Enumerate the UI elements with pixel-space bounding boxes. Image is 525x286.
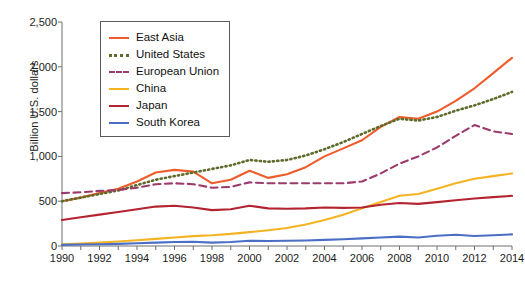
x-axis-tick-label: 2008	[387, 252, 411, 264]
x-axis-tick-label: 1996	[162, 252, 186, 264]
x-axis-tick-label: 1998	[200, 252, 224, 264]
legend-swatch-icon	[109, 31, 129, 42]
legend-item-china[interactable]: China	[109, 79, 219, 96]
legend-label: Japan	[136, 99, 167, 111]
legend-item-south-korea[interactable]: South Korea	[109, 113, 219, 130]
legend-label: East Asia	[136, 31, 184, 43]
x-axis-tick-label: 1992	[87, 252, 111, 264]
legend-item-united-states[interactable]: United States	[109, 45, 219, 62]
x-axis-tick-label: 1994	[125, 252, 149, 264]
x-axis-tick-label: 2000	[237, 252, 261, 264]
x-axis-tick-label: 2012	[462, 252, 486, 264]
legend-swatch-icon	[109, 65, 129, 76]
x-axis-tick-label: 2014	[500, 252, 524, 264]
x-axis-tick-label: 2006	[350, 252, 374, 264]
legend-item-east-asia[interactable]: East Asia	[109, 28, 219, 45]
legend-swatch-icon	[109, 48, 129, 59]
legend-item-european-union[interactable]: European Union	[109, 62, 219, 79]
series-line-japan	[62, 196, 512, 220]
legend-swatch-icon	[109, 82, 129, 93]
plot-area	[0, 0, 525, 286]
legend-label: European Union	[136, 65, 219, 77]
x-axis-tick-label: 2002	[275, 252, 299, 264]
legend-label: United States	[136, 48, 205, 60]
chart-legend: East AsiaUnited StatesEuropean UnionChin…	[100, 21, 230, 137]
series-line-south-korea	[62, 234, 512, 245]
legend-item-japan[interactable]: Japan	[109, 96, 219, 113]
x-axis-tick-label: 2010	[425, 252, 449, 264]
x-axis-tick-label: 2004	[312, 252, 336, 264]
legend-swatch-icon	[109, 116, 129, 127]
x-axis-tick-label: 1990	[50, 252, 74, 264]
chart-container: Billion U.S. dollars 05001,0001,5002,000…	[0, 0, 525, 286]
legend-label: South Korea	[136, 116, 200, 128]
legend-swatch-icon	[109, 99, 129, 110]
legend-label: China	[136, 82, 166, 94]
